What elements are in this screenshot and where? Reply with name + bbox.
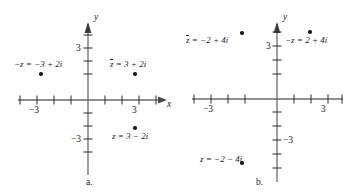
panel-b-caption: b. <box>256 178 263 188</box>
panel-b-label-z-conjugate: z = −2 + 4i <box>186 36 228 45</box>
point-neg-z-a <box>39 72 43 76</box>
panel-b-label-neg-z-rest: = 2 + 4i <box>295 35 328 45</box>
panel-a-caption: a. <box>86 178 93 188</box>
point-neg-z-b <box>308 30 312 34</box>
panel-b-xtick-neg3: −3 <box>203 105 213 115</box>
panel-b-label-neg-z-var: −z <box>285 35 295 45</box>
panel-b-ytick-neg3: −3 <box>283 136 293 146</box>
point-z-a <box>133 126 137 130</box>
panel-a-x-axis-label: x <box>167 100 171 110</box>
panel-a-xtick-neg3: −3 <box>29 106 39 116</box>
panel-a-axes <box>0 0 180 193</box>
panel-a-ytick-neg3: −3 <box>71 135 81 145</box>
panel-a-y-axis-label: y <box>94 13 98 23</box>
panel-b-label-z: z = −2 − 4i <box>200 155 242 164</box>
panel-b-ytick-pos3: 3 <box>266 42 271 52</box>
panel-b: y −3 3 3 −3 z = −2 + 4i −z = 2 + 4i z = … <box>180 0 347 193</box>
panel-a-label-neg-z-var: −z <box>14 59 24 69</box>
point-z-conjugate-b <box>240 31 244 35</box>
point-z-conjugate-a <box>133 72 137 76</box>
panel-b-y-axis-label: y <box>283 13 287 23</box>
panel-a-label-z-conjugate: z = 3 + 2i <box>110 60 146 69</box>
panel-a-label-z-conjugate-var: z <box>110 60 114 69</box>
panel-a-label-neg-z-rest: = −3 + 2i <box>24 59 63 69</box>
panel-b-label-z-conjugate-var: z <box>186 36 190 45</box>
panel-b-label-z-conjugate-rest: = −2 + 4i <box>190 35 229 45</box>
panel-a-ytick-pos3: 3 <box>76 44 81 54</box>
panel-a: y x −3 3 3 −3 −z = −3 + 2i z = 3 + 2i z … <box>0 0 180 193</box>
panel-a-label-z-conjugate-rest: = 3 + 2i <box>114 59 147 69</box>
panel-b-xtick-pos3: 3 <box>321 105 326 115</box>
panel-a-label-z: z = 3 − 2i <box>112 132 148 141</box>
panel-a-xtick-pos3: 3 <box>132 106 137 116</box>
complex-plane-figure: y x −3 3 3 −3 −z = −3 + 2i z = 3 + 2i z … <box>0 0 347 193</box>
panel-a-label-neg-z: −z = −3 + 2i <box>14 60 62 69</box>
panel-b-label-neg-z: −z = 2 + 4i <box>285 36 327 45</box>
panel-b-axes <box>180 0 347 193</box>
